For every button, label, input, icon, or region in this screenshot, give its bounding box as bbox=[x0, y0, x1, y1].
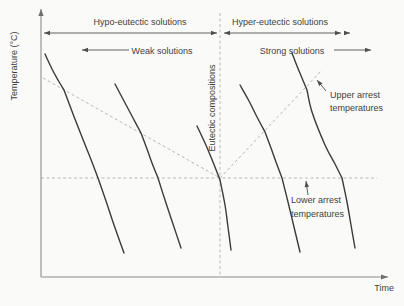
region-label-strong-solutions: Strong solutions bbox=[260, 46, 325, 56]
arrowhead bbox=[344, 31, 350, 35]
region-label-weak-solutions: Weak solutions bbox=[132, 46, 193, 56]
lower-arrest-label-line2: temperatures bbox=[291, 209, 345, 219]
cooling-curve-hyper-1 bbox=[240, 85, 300, 252]
cooling-curve-hypo-1 bbox=[45, 54, 124, 253]
cooling-curves-diagram: Temperature (°C) Time Hypo-eutectic solu… bbox=[0, 0, 404, 306]
arrowhead bbox=[305, 181, 309, 187]
arrowhead bbox=[82, 48, 88, 52]
region-label-hypo-eutectic: Hypo-eutectic solutions bbox=[93, 17, 187, 27]
region-label-hyper-eutectic: Hyper-eutectic solutions bbox=[232, 17, 329, 27]
upper-arrest-guide-hyper bbox=[220, 70, 322, 178]
upper-arrest-guide-hypo bbox=[43, 78, 220, 178]
arrowhead bbox=[381, 274, 388, 279]
cooling-curves-figure: Temperature (°C) Time Hypo-eutectic solu… bbox=[0, 0, 404, 306]
arrowhead bbox=[365, 48, 371, 52]
arrowhead bbox=[38, 9, 43, 16]
arrowhead bbox=[335, 31, 341, 35]
y-axis-label: Temperature (°C) bbox=[9, 31, 19, 100]
x-axis-label: Time bbox=[374, 283, 394, 293]
upper-arrest-label-line1: Upper arrest bbox=[330, 90, 381, 100]
eutectic-compositions-label: Eutectic compositions bbox=[207, 64, 217, 152]
arrowhead bbox=[224, 31, 230, 35]
arrowhead bbox=[211, 31, 217, 35]
cooling-curve-hypo-2 bbox=[115, 84, 181, 248]
arrowhead bbox=[44, 31, 50, 35]
upper-arrest-label-line2: temperatures bbox=[330, 103, 384, 113]
lower-arrest-label-line1: Lower arrest bbox=[291, 195, 342, 205]
